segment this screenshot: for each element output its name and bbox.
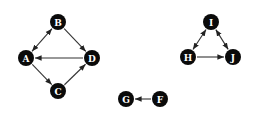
edge-c-d — [64, 64, 85, 84]
edge-a-b — [32, 29, 52, 52]
node-label: F — [157, 95, 164, 105]
node-f: F — [152, 91, 168, 107]
node-d: D — [84, 50, 100, 66]
node-i: I — [203, 14, 219, 30]
node-label: J — [230, 53, 235, 63]
edge-a-c — [32, 64, 51, 84]
node-a: A — [18, 50, 34, 66]
edge-h-i — [193, 30, 206, 50]
node-label: D — [88, 54, 96, 64]
node-label: A — [22, 54, 31, 64]
nodes-layer: ABCDIHJGF — [18, 14, 241, 107]
node-h: H — [180, 49, 196, 65]
node-c: C — [50, 83, 66, 99]
node-label: C — [54, 87, 61, 97]
node-j: J — [225, 49, 241, 65]
edge-b-d — [64, 29, 86, 52]
node-b: B — [50, 14, 66, 30]
directed-graph: ABCDIHJGF — [0, 0, 255, 117]
node-g: G — [118, 91, 134, 107]
node-label: B — [54, 18, 62, 28]
node-label: H — [184, 53, 193, 63]
edge-i-j — [216, 30, 228, 50]
node-label: G — [122, 95, 130, 105]
node-label: I — [209, 18, 213, 28]
